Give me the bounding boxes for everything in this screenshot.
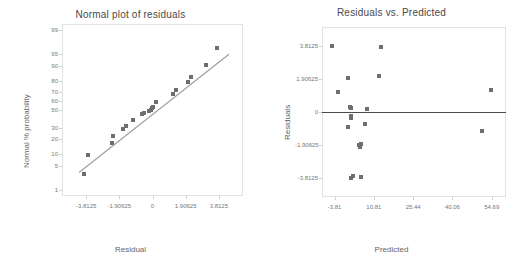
y-tick-mark	[59, 190, 62, 191]
data-point	[377, 74, 381, 78]
data-point	[189, 75, 193, 79]
data-point	[124, 124, 128, 128]
y-tick-mark	[59, 30, 62, 31]
data-point	[111, 134, 115, 138]
normal-plot-x-axis-title: Residual	[0, 245, 261, 254]
data-point	[480, 129, 484, 133]
x-tick-label: 40.06	[430, 204, 474, 210]
data-point	[174, 88, 178, 92]
y-tick-label: 1	[38, 187, 58, 193]
data-point	[142, 111, 146, 115]
y-tick-label: 90	[38, 63, 58, 69]
y-tick-mark	[59, 101, 62, 102]
y-tick-label: 95	[38, 51, 58, 57]
data-point	[215, 46, 219, 50]
y-tick-label: 0	[295, 109, 318, 115]
x-tick-mark	[219, 196, 220, 199]
data-point	[363, 122, 367, 126]
y-tick-mark	[319, 145, 322, 146]
data-point	[154, 100, 158, 104]
y-tick-label: 60	[38, 98, 58, 104]
y-tick-label: -1.90625	[295, 142, 318, 148]
y-tick-mark	[59, 110, 62, 111]
data-point	[151, 105, 155, 109]
data-point	[349, 116, 353, 120]
data-point	[349, 106, 353, 110]
x-tick-mark	[452, 197, 453, 200]
data-point	[351, 174, 355, 178]
y-tick-label: 30	[38, 125, 58, 131]
data-point	[86, 153, 90, 157]
x-tick-mark	[86, 196, 87, 199]
normal-plot-panel: Normal plot of residuals Normal % probab…	[0, 0, 261, 269]
y-tick-mark	[59, 154, 62, 155]
data-point	[365, 107, 369, 111]
data-point	[346, 76, 350, 80]
normal-plot-title: Normal plot of residuals	[0, 9, 261, 20]
x-tick-mark	[374, 197, 375, 200]
x-tick-mark	[153, 196, 154, 199]
y-tick-mark	[59, 81, 62, 82]
data-point	[204, 63, 208, 67]
data-point	[359, 142, 363, 146]
y-tick-mark	[59, 166, 62, 167]
data-point	[82, 172, 86, 176]
y-tick-label: -3.8125	[295, 175, 318, 181]
x-tick-mark	[119, 196, 120, 199]
data-point	[330, 44, 334, 48]
residuals-vs-predicted-x-axis-title: Predicted	[261, 245, 522, 254]
residuals-vs-predicted-y-axis-title: Residuals	[283, 105, 292, 140]
y-tick-label: 50	[38, 107, 58, 113]
x-tick-mark	[413, 197, 414, 200]
x-tick-label: 3.8125	[195, 203, 243, 209]
residuals-vs-predicted-panel: Residuals vs. Predicted Residuals Predic…	[261, 0, 522, 269]
x-tick-label: 10.81	[352, 204, 396, 210]
y-tick-mark	[59, 66, 62, 67]
y-tick-mark	[59, 128, 62, 129]
y-tick-mark	[59, 139, 62, 140]
y-tick-label: 5	[38, 163, 58, 169]
x-tick-label: 54.69	[470, 204, 514, 210]
y-tick-label: 3.8125	[295, 43, 318, 49]
y-tick-label: 80	[38, 78, 58, 84]
x-tick-mark	[335, 197, 336, 200]
zero-reference-line	[322, 112, 506, 113]
data-point	[131, 118, 135, 122]
y-tick-label: 1.90625	[295, 76, 318, 82]
x-tick-label: -3.81	[313, 204, 357, 210]
data-point	[489, 88, 493, 92]
y-tick-label: 99	[38, 27, 58, 33]
residuals-vs-predicted-title: Residuals vs. Predicted	[261, 7, 522, 18]
y-tick-mark	[319, 178, 322, 179]
normal-plot-y-axis-title: Normal % probability	[22, 94, 31, 168]
y-tick-mark	[319, 46, 322, 47]
x-tick-label: 25.44	[391, 204, 435, 210]
x-tick-mark	[492, 197, 493, 200]
data-point	[359, 175, 363, 179]
data-point	[336, 90, 340, 94]
y-tick-mark	[59, 92, 62, 93]
y-tick-mark	[59, 54, 62, 55]
residual-diagnostics-figure: Normal plot of residuals Normal % probab…	[0, 0, 522, 269]
y-tick-label: 70	[38, 89, 58, 95]
x-tick-mark	[186, 196, 187, 199]
data-point	[121, 127, 125, 131]
y-tick-mark	[319, 79, 322, 80]
data-point	[379, 45, 383, 49]
y-tick-label: 20	[38, 136, 58, 142]
y-tick-label: 10	[38, 151, 58, 157]
data-point	[346, 125, 350, 129]
